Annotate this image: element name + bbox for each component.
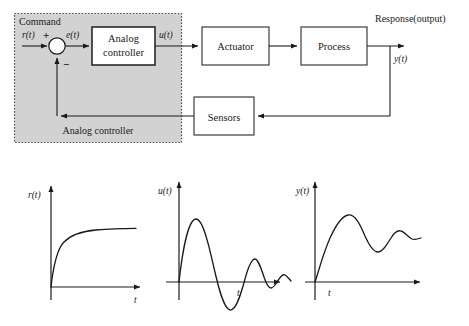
block-sensors-label: Sensors [208, 112, 241, 123]
label-signal-reference: r(t) [22, 30, 35, 41]
plot-y-curve [315, 215, 421, 282]
plot-u-curve [179, 219, 291, 310]
block-analog-controller-label-line1: Analog [108, 33, 140, 44]
plot-r-y-label: r(t) [28, 190, 41, 201]
label-command: Command [19, 16, 61, 27]
label-sign-negative: − [63, 58, 69, 70]
label-analog-controller-region: Analog controller [63, 125, 134, 136]
block-process-label: Process [318, 41, 350, 52]
plot-y-x-label: t [328, 288, 331, 298]
plot-r-curve [51, 228, 136, 287]
block-actuator-label: Actuator [217, 41, 254, 52]
plot-y: y(t) t [295, 182, 421, 300]
label-signal-control: u(t) [159, 30, 173, 41]
plot-u-x-label: t [237, 288, 240, 298]
label-sign-positive: + [43, 29, 49, 41]
plot-u-y-label: u(t) [158, 186, 172, 197]
plot-y-y-label: y(t) [295, 186, 309, 197]
plot-r: r(t) t [28, 186, 140, 305]
label-signal-output: y(t) [393, 54, 407, 65]
label-response-output: Response(output) [375, 13, 446, 25]
block-analog-controller-label-line2: controller [103, 47, 144, 58]
figure-canvas: Command r(t) + e(t) − Analog controller … [0, 0, 469, 326]
summing-junction [49, 38, 65, 54]
label-signal-error: e(t) [66, 30, 79, 41]
plot-u: u(t) t [158, 182, 291, 310]
plot-r-x-label: t [134, 295, 137, 305]
